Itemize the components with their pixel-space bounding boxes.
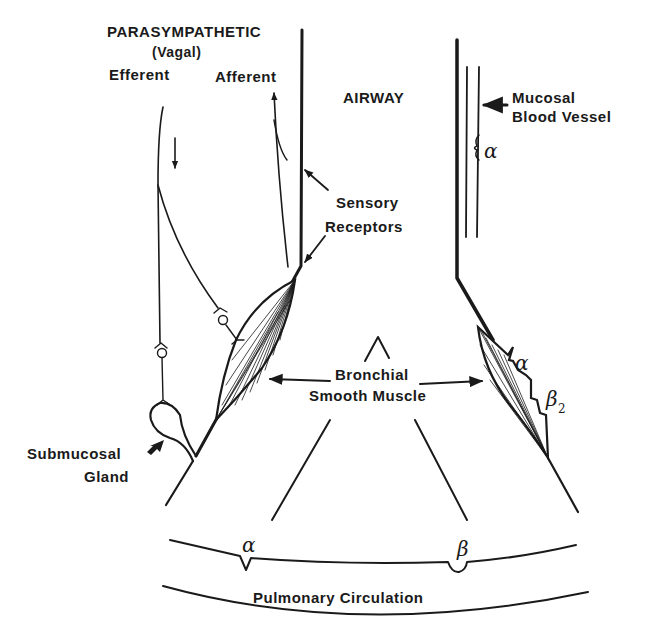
vagal-label: (Vagal)	[152, 44, 201, 60]
arrow-to-left-muscle	[270, 379, 330, 381]
sensory-receptors-label-line2: Receptors	[325, 218, 403, 235]
muscle-alpha-receptor: α	[515, 351, 529, 375]
afferent-label: Afferent	[215, 68, 277, 85]
efferent-label: Efferent	[109, 66, 170, 83]
sensory-receptors-label-line1: Sensory	[336, 194, 399, 211]
gland-pointer-arrow	[147, 440, 164, 455]
smooth-muscle-left	[216, 280, 295, 420]
mucosal-vessel-label-line2: Blood Vessel	[512, 108, 611, 125]
pulmonary-alpha-receptor: α	[242, 533, 256, 557]
parasympathetic-label: PARASYMPATHETIC	[107, 23, 261, 40]
bronchial-muscle-label-line1: Bronchial	[335, 366, 409, 383]
vessel-alpha-receptor: α	[484, 139, 498, 163]
airway-wall-left	[166, 30, 302, 505]
sensory-receptor-arrow-upper	[305, 170, 328, 190]
pulmonary-circulation-label: Pulmonary Circulation	[253, 589, 424, 606]
carina-peak	[365, 337, 389, 361]
submucosal-gland-label-line2: Gland	[84, 468, 129, 485]
submucosal-gland	[150, 403, 196, 461]
pulmonary-beta-receptor: β	[456, 537, 469, 561]
afferent-nerve	[274, 93, 288, 267]
bronchus-branch-line-right	[415, 420, 467, 520]
smooth-muscle-right	[478, 327, 548, 458]
bronchial-muscle-label-line2: Smooth Muscle	[309, 387, 426, 404]
muscle-beta2-subscript: 2	[558, 402, 566, 416]
airway-innervation-diagram: PARASYMPATHETIC (Vagal) Efferent Afferen…	[0, 0, 662, 635]
airway-label: AIRWAY	[343, 89, 404, 106]
muscle-beta2-receptor: β	[545, 387, 558, 411]
sensory-receptor-arrow-lower	[305, 236, 325, 262]
submucosal-gland-label-line1: Submucosal	[27, 445, 121, 462]
bronchus-branch-line-left	[272, 420, 330, 520]
mucosal-vessel-label-line1: Mucosal	[512, 89, 576, 106]
arrow-to-right-muscle	[420, 381, 482, 384]
mucosal-blood-vessel	[466, 67, 479, 237]
